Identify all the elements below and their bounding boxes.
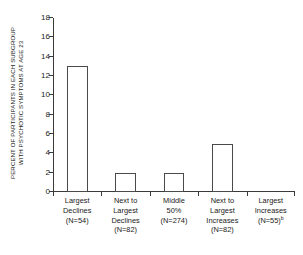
y-axis-tick-label: 6 xyxy=(36,130,50,138)
x-axis-category-label: LargestDeclines(N=54) xyxy=(53,196,101,225)
x-axis-category-line: Largest xyxy=(247,196,295,206)
y-axis-tick-label: 12 xyxy=(36,72,50,80)
y-axis-tick-label: 18 xyxy=(36,14,50,22)
y-axis-tick-label: 10 xyxy=(36,91,50,99)
x-axis-category-line: Largest xyxy=(53,196,101,206)
y-axis-tick xyxy=(49,114,53,115)
x-axis-category-labels: LargestDeclines(N=54)Next toLargestDecli… xyxy=(53,196,295,254)
bar xyxy=(67,66,88,192)
x-axis-category-line: Largest xyxy=(198,206,246,216)
x-axis-category-line: Next to xyxy=(101,196,149,206)
bar xyxy=(212,144,233,192)
y-axis-tick xyxy=(49,94,53,95)
x-axis-category-line: Increases xyxy=(247,206,295,216)
x-axis-category-line: 50% xyxy=(150,206,198,216)
x-axis-category-line: Middle xyxy=(150,196,198,206)
bar-chart-figure: PERCENT OF PARTICIPANTS IN EACH SUBGROUP… xyxy=(0,0,303,255)
x-axis-category-line: (N=274) xyxy=(150,216,198,226)
x-axis-category-label: LargestIncreases(N=55)b xyxy=(247,196,295,225)
plot-area xyxy=(53,18,295,192)
y-axis-tick xyxy=(49,152,53,153)
y-axis-line xyxy=(53,18,54,192)
x-axis-category-line: Next to xyxy=(198,196,246,206)
y-axis-tick-label: 2 xyxy=(36,169,50,177)
bar xyxy=(164,173,185,192)
x-axis-category-line: Largest xyxy=(101,206,149,216)
y-axis-title-line-2: WITH PSYCHOTIC SYMPTOMS AT AGE 23 xyxy=(17,14,25,192)
y-axis-tick xyxy=(49,75,53,76)
x-axis-category-label: Next toLargestIncreases(N=82) xyxy=(198,196,246,235)
y-axis-tick xyxy=(49,172,53,173)
y-axis-tick-label: 16 xyxy=(36,33,50,41)
y-axis-tick-label: 0 xyxy=(36,188,50,196)
y-axis-tick-labels: 024681012141618 xyxy=(34,0,50,255)
y-axis-tick xyxy=(49,17,53,18)
y-axis-tick-label: 14 xyxy=(36,53,50,61)
x-axis-category-line: (N=82) xyxy=(101,225,149,235)
y-axis-title-line-1: PERCENT OF PARTICIPANTS IN EACH SUBGROUP xyxy=(9,14,17,192)
x-axis-category-label: Middle50%(N=274) xyxy=(150,196,198,225)
x-axis-category-line: Declines xyxy=(53,206,101,216)
y-axis-tick xyxy=(49,36,53,37)
x-axis-category-line: (N=54) xyxy=(53,216,101,226)
x-axis-category-line: (N=82) xyxy=(198,225,246,235)
x-axis-category-line: Increases xyxy=(198,216,246,226)
x-axis-category-line: Declines xyxy=(101,216,149,226)
y-axis-tick xyxy=(49,133,53,134)
bar xyxy=(115,173,136,192)
y-axis-tick xyxy=(49,56,53,57)
y-axis-tick-label: 8 xyxy=(36,111,50,119)
footnote-marker: b xyxy=(281,214,284,220)
y-axis-title: PERCENT OF PARTICIPANTS IN EACH SUBGROUP… xyxy=(0,14,34,192)
x-axis-category-line: (N=55)b xyxy=(247,216,295,226)
y-axis-title-text: PERCENT OF PARTICIPANTS IN EACH SUBGROUP… xyxy=(9,14,26,192)
x-axis-category-label: Next toLargestDeclines(N=82) xyxy=(101,196,149,235)
y-axis-tick-label: 4 xyxy=(36,149,50,157)
